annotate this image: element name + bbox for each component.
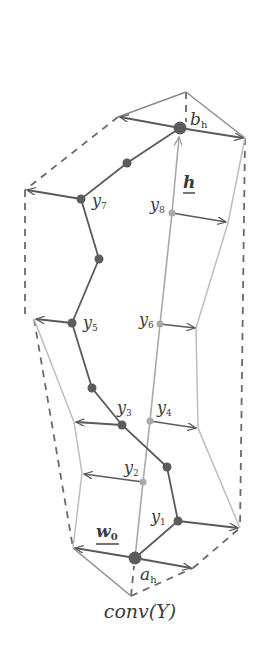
dark-path bbox=[72, 128, 180, 558]
h-vector-arrow bbox=[172, 137, 179, 213]
point-y6 bbox=[157, 321, 164, 328]
point-y5 bbox=[68, 319, 77, 328]
label-b-h: bh bbox=[190, 109, 208, 130]
point-mid-a bbox=[163, 463, 172, 472]
caption-conv-y: conv(Y) bbox=[104, 600, 176, 622]
label-y2: y2 bbox=[123, 458, 139, 478]
point-mid-c bbox=[95, 255, 104, 264]
point-y4 bbox=[147, 418, 154, 425]
label-h: h bbox=[183, 172, 195, 192]
point-y2 bbox=[140, 479, 147, 486]
point-a-h bbox=[129, 552, 142, 565]
label-y4: y4 bbox=[156, 398, 172, 418]
convex-hull-diagram: bh ah h w0 y1 y2 y3 y4 y5 y6 y7 y8 conv(… bbox=[0, 0, 270, 645]
dark-points bbox=[68, 122, 187, 565]
point-y8 bbox=[169, 210, 176, 217]
point-y1 bbox=[174, 517, 183, 526]
light-arrows bbox=[84, 213, 226, 482]
point-mid-d bbox=[123, 159, 132, 168]
label-a-h: ah bbox=[140, 564, 157, 585]
point-y3 bbox=[118, 421, 127, 430]
label-y6: y6 bbox=[138, 310, 154, 330]
outer-dashed-hull bbox=[25, 92, 245, 596]
label-y1: y1 bbox=[150, 507, 166, 527]
inner-light-hull bbox=[34, 138, 245, 548]
label-y5: y5 bbox=[82, 313, 98, 333]
point-b-h bbox=[174, 122, 187, 135]
label-y8: y8 bbox=[149, 195, 165, 215]
point-y7 bbox=[77, 195, 86, 204]
point-mid-b bbox=[88, 384, 97, 393]
dark-arrows bbox=[27, 117, 243, 568]
label-y3: y3 bbox=[116, 398, 132, 418]
label-y7: y7 bbox=[91, 191, 107, 211]
label-w0: w0 bbox=[96, 521, 118, 542]
